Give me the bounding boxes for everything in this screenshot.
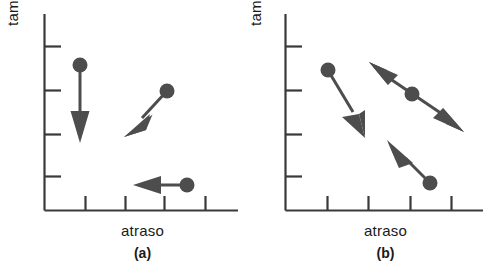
panel-b-x-axis-label: atraso <box>243 222 486 239</box>
panel-b-y-axis-label: tamanho <box>245 0 267 74</box>
panel-a: tamanho <box>0 0 243 270</box>
figure-container: tamanho <box>0 0 486 270</box>
panel-a-y-ticks <box>45 47 62 177</box>
panel-b-axes <box>286 14 484 211</box>
panel-a-vector-2 <box>124 84 175 138</box>
panel-b-vector-2 <box>369 62 464 132</box>
panel-a-x-axis-label: atraso <box>0 222 243 239</box>
panel-b-plot <box>243 0 486 230</box>
panel-a-x-ticks <box>86 196 206 211</box>
panel-b: tamanho <box>243 0 486 270</box>
panel-a-caption: (a) <box>0 245 243 261</box>
panel-b-x-ticks <box>328 196 452 211</box>
panel-a-vector-3 <box>133 176 195 194</box>
panel-b-vector-1 <box>321 63 366 139</box>
panel-b-y-ticks <box>286 47 303 177</box>
panel-b-vector-3 <box>387 140 438 191</box>
panel-a-vector-1 <box>71 58 90 144</box>
panel-b-caption: (b) <box>243 245 486 261</box>
panel-a-y-axis-label: tamanho <box>2 0 24 74</box>
panel-a-plot <box>0 0 243 230</box>
